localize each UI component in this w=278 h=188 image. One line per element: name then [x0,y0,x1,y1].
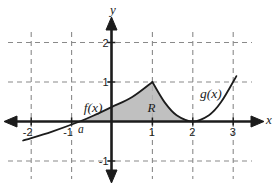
x-axis-right-arrow-icon [251,116,264,127]
x-tick-label--2: -2 [23,126,33,138]
y-axis-down-arrow-icon [106,170,117,183]
g-label: g(x) [200,86,222,101]
x-tick-label-3: 3 [230,126,236,138]
x-axis-left-arrow-icon [4,116,17,127]
x-tick-label-1: 1 [149,126,155,138]
y-tick-label-1: 1 [102,76,108,88]
x-axis-label: x [265,112,272,127]
figure-canvas: -2-1123-112xyf(x)g(x)Ra [0,0,278,188]
y-tick-label-2: 2 [102,37,108,49]
graph-region-between-curves: -2-1123-112xyf(x)g(x)Ra [0,0,278,188]
point-a-label: a [78,123,84,135]
region-r-label: R [147,100,156,115]
f-label: f(x) [84,100,103,115]
y-tick-label--1: -1 [99,155,109,167]
y-axis-label: y [108,2,116,17]
y-axis-up-arrow-icon [106,17,117,30]
x-tick-label--1: -1 [63,126,73,138]
x-tick-label-2: 2 [189,126,195,138]
